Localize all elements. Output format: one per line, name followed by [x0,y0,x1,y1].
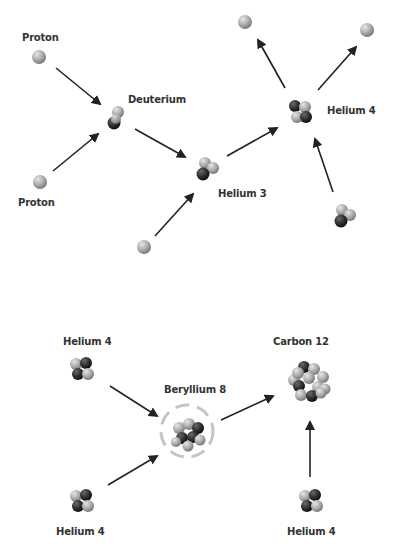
carbon12-nucleus-icon [288,361,331,402]
helium3-nucleus-icon [197,157,220,181]
proton-particle-icon [137,240,151,254]
arrow-be8-to-c12 [221,396,273,420]
arrow-deuterium-to-helium3 [135,129,185,157]
label-proton-bottom: Proton [18,197,55,208]
arrow-helium3-to-helium4 [227,128,277,156]
label-beryllium8: Beryllium 8 [164,384,226,395]
helium4-nucleus-icon [299,489,323,512]
proton-particle-icon [32,50,46,64]
label-helium4-top: Helium 4 [327,105,375,116]
arrow-he4b-to-be8 [108,456,157,485]
fusion-diagram [0,0,405,553]
helium3-nucleus-icon [335,204,357,228]
proton-particle-icon [33,175,47,189]
arrow-helium4-to-proton-out-left [258,40,285,88]
arrow-proton-to-deuterium [56,68,100,104]
deuterium-nucleus-icon [108,106,125,130]
helium4-nucleus-icon [70,357,94,380]
helium4-nucleus-icon [289,100,312,123]
proton-particle-icon [360,23,374,37]
label-carbon12: Carbon 12 [273,336,329,347]
label-deuterium: Deuterium [128,94,186,105]
helium4-nucleus-icon [70,489,94,512]
label-helium4-b: Helium 4 [56,526,104,537]
arrow-he4a-to-be8 [110,386,157,416]
proton-particle-icon [238,15,252,29]
arrow-helium4-to-proton-out-right [318,47,356,90]
beryllium8-nucleus-icon [161,405,213,457]
arrow-proton2-to-deuterium [53,134,98,171]
label-helium4-c: Helium 4 [287,526,335,537]
label-helium3: Helium 3 [218,188,266,199]
label-proton-top: Proton [22,32,59,43]
label-helium4-a: Helium 4 [63,336,111,347]
arrow-proton3-to-helium3 [155,194,193,236]
arrow-helium3b-to-helium4 [315,139,333,192]
